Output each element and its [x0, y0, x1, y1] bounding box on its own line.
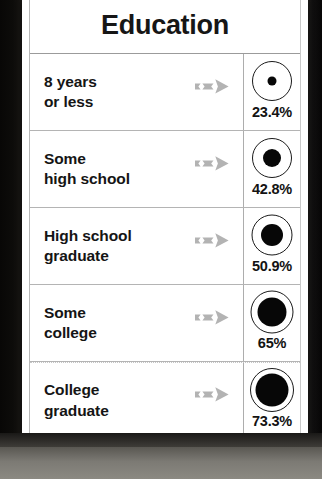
row-arrow-cell — [181, 208, 244, 284]
row-arrow-cell — [181, 285, 244, 361]
row-label: Some college — [44, 303, 97, 344]
education-rows: 8 years or less23.4%Some high school42.8… — [30, 54, 300, 439]
row-percentage: 73.3% — [252, 413, 292, 429]
page-edge-left — [0, 0, 22, 479]
row-value-cell: 42.8% — [244, 131, 300, 207]
page-edge-right — [308, 0, 322, 479]
row-label-cell: Some college — [30, 285, 181, 361]
row-percentage: 50.9% — [252, 258, 292, 274]
proportion-dot-graphic — [250, 213, 294, 257]
row-label-cell: College graduate — [30, 363, 181, 438]
row-value-cell: 50.9% — [244, 208, 300, 284]
table-row[interactable]: 8 years or less23.4% — [30, 54, 300, 131]
arrow-right-icon — [195, 309, 229, 326]
row-value-cell: 73.3% — [244, 363, 300, 438]
proportion-dot-graphic — [250, 368, 294, 412]
proportion-dot-graphic — [250, 59, 294, 103]
photo-backdrop: Education 8 years or less23.4%Some high … — [0, 0, 322, 479]
dot-inner-fill — [268, 77, 277, 86]
row-arrow-cell — [181, 54, 244, 130]
row-label: Some high school — [44, 149, 130, 190]
row-percentage: 23.4% — [252, 104, 292, 120]
card-header: Education — [30, 0, 300, 54]
education-chart-card: Education 8 years or less23.4%Some high … — [22, 0, 308, 456]
row-value-cell: 65% — [244, 285, 300, 361]
table-row[interactable]: Some college65% — [30, 285, 300, 362]
row-percentage: 42.8% — [252, 181, 292, 197]
row-label: College graduate — [44, 380, 109, 421]
arrow-right-icon — [195, 386, 229, 403]
row-label-cell: 8 years or less — [30, 54, 181, 130]
dot-inner-fill — [258, 298, 287, 327]
arrow-right-icon — [195, 232, 229, 249]
row-label-cell: High school graduate — [30, 208, 181, 284]
page-title: Education — [101, 12, 229, 41]
row-arrow-cell — [181, 363, 244, 438]
page-base-shadow — [0, 433, 322, 479]
table-row[interactable]: Some high school42.8% — [30, 131, 300, 208]
row-percentage: 65% — [258, 335, 286, 351]
dot-inner-fill — [263, 149, 281, 167]
row-label-cell: Some high school — [30, 131, 181, 207]
table-row[interactable]: College graduate73.3% — [30, 362, 300, 439]
proportion-dot-graphic — [250, 136, 294, 180]
arrow-right-icon — [195, 78, 229, 95]
dot-inner-fill — [261, 224, 283, 246]
proportion-dot-graphic — [250, 290, 294, 334]
row-arrow-cell — [181, 131, 244, 207]
arrow-right-icon — [195, 155, 229, 172]
row-label: 8 years or less — [44, 72, 97, 113]
table-row[interactable]: High school graduate50.9% — [30, 208, 300, 285]
row-label: High school graduate — [44, 226, 132, 267]
card-inner-frame: Education 8 years or less23.4%Some high … — [29, 0, 301, 448]
dot-inner-fill — [256, 374, 289, 407]
row-value-cell: 23.4% — [244, 54, 300, 130]
